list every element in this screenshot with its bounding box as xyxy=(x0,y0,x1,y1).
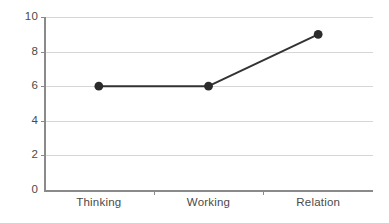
gridline-6 xyxy=(44,86,373,87)
line-chart: 10 8 6 4 2 0 Thinking Working Relation xyxy=(0,0,389,223)
plot-area xyxy=(44,17,373,190)
gridline-4 xyxy=(44,121,373,122)
x-tick-label-working: Working xyxy=(187,193,230,211)
y-tick-mark-8 xyxy=(41,52,45,53)
y-axis-tick-marks xyxy=(0,17,45,191)
gridline-10 xyxy=(44,17,373,18)
x-tick-label-relation: Relation xyxy=(296,193,340,211)
x-axis-tick-labels: Thinking Working Relation xyxy=(44,193,373,215)
gridline-8 xyxy=(44,52,373,53)
x-tick-label-thinking: Thinking xyxy=(76,193,121,211)
y-tick-mark-10 xyxy=(41,17,45,18)
y-tick-mark-2 xyxy=(41,155,45,156)
y-tick-mark-4 xyxy=(41,121,45,122)
y-tick-mark-6 xyxy=(41,86,45,87)
gridline-2 xyxy=(44,155,373,156)
